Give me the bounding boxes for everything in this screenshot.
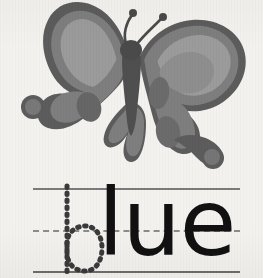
tail-knob-fill	[204, 149, 220, 165]
written-letters-lue: lue	[98, 176, 263, 276]
left-tail-knob-fill	[25, 99, 41, 115]
butterfly-illustration	[0, 0, 263, 190]
antenna-left-tip	[129, 9, 137, 17]
antenna-right-tip	[159, 13, 167, 21]
trace-b-bowl	[67, 226, 102, 271]
practice-word-blue: lue	[0, 180, 263, 278]
handwriting-practice-area: lue	[0, 180, 263, 278]
flashcard-blue: lue	[0, 0, 263, 278]
antenna-left	[125, 15, 132, 44]
